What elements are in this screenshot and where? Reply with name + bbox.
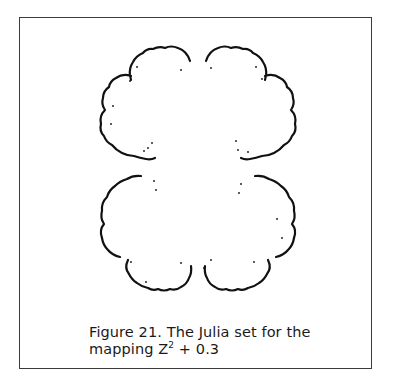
julia-lobe-bottom-left: [101, 176, 191, 291]
formula-variable: Z: [158, 341, 168, 357]
figure-number: Figure 21.: [89, 324, 162, 340]
caption-text-1: The Julia set for the: [167, 324, 311, 340]
caption-line-1: Figure 21. The Julia set for the: [89, 324, 359, 341]
julia-scatter-points: [110, 66, 283, 283]
julia-lobe-top-left: [100, 47, 190, 160]
caption-line-2: mapping Z2 + 0.3: [89, 341, 359, 358]
julia-lobe-top-right: [206, 47, 296, 160]
formula-exponent: 2: [168, 340, 174, 350]
formula-constant: + 0.3: [179, 341, 219, 357]
julia-lobe-bottom-right: [205, 176, 295, 291]
figure-caption: Figure 21. The Julia set for the mapping…: [89, 324, 359, 358]
caption-text-2: mapping: [89, 341, 154, 357]
